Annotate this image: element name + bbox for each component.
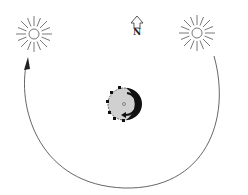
orbit-diagram: N bbox=[0, 0, 248, 195]
north-label: N bbox=[133, 27, 141, 37]
earth-icon bbox=[106, 86, 142, 122]
diagram-canvas bbox=[0, 0, 248, 195]
sun-right-icon bbox=[179, 15, 215, 51]
orbit-arrowhead-icon bbox=[24, 57, 30, 70]
orbit-path bbox=[24, 56, 219, 188]
sun-left-icon bbox=[16, 16, 52, 52]
